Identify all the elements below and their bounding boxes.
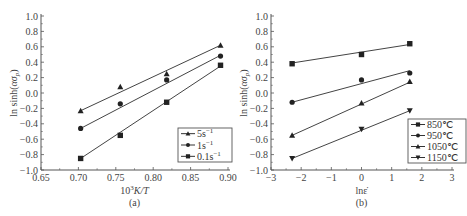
x-tick-label: −3	[266, 172, 277, 183]
y-tick-label: −0.4	[250, 118, 268, 129]
triangle-down-marker-icon	[407, 108, 413, 114]
panel-label: (a)	[129, 197, 140, 209]
y-tick-label: −0.8	[250, 149, 268, 160]
x-tick-label: 0	[359, 172, 364, 183]
x-tick-label: 0.75	[107, 172, 125, 183]
x-axis-title: lnε̇	[356, 185, 369, 196]
circle-marker-icon	[186, 143, 190, 147]
y-tick-label: 0.2	[26, 72, 39, 83]
chart-panel-b: −1.0−0.8−0.6−0.4−0.20.00.20.40.60.81.0−3…	[238, 11, 466, 210]
x-tick-label: −2	[296, 172, 307, 183]
circle-marker-icon	[164, 77, 169, 82]
series-950℃	[290, 70, 413, 104]
square-marker-icon	[164, 100, 169, 105]
panel-label: (b)	[356, 197, 368, 209]
y-tick-label: 0.4	[256, 57, 269, 68]
x-tick-label: 2	[419, 172, 424, 183]
circle-marker-icon	[407, 70, 412, 75]
fit-line	[292, 71, 410, 103]
square-marker-icon	[407, 41, 412, 46]
y-tick-label: 0.6	[256, 41, 269, 52]
x-tick-label: −1	[326, 172, 337, 183]
x-tick-label: 1	[389, 172, 394, 183]
square-marker-icon	[359, 52, 364, 57]
x-tick-label: 0.90	[219, 172, 237, 183]
series-850℃	[289, 41, 412, 66]
circle-marker-icon	[118, 101, 123, 106]
legend-entry: 1150℃	[427, 152, 458, 163]
circle-marker-icon	[218, 53, 223, 58]
y-tick-label: 0.4	[26, 57, 39, 68]
y-tick-label: 0.0	[26, 88, 39, 99]
triangle-down-marker-icon	[289, 156, 295, 162]
square-marker-icon	[186, 154, 190, 158]
x-tick-label: 0.85	[182, 172, 200, 183]
y-tick-label: 0.8	[26, 26, 39, 37]
square-marker-icon	[78, 156, 83, 161]
y-tick-label: −0.2	[250, 103, 268, 114]
y-tick-label: 0.8	[256, 26, 269, 37]
y-tick-label: 0.6	[26, 41, 39, 52]
y-tick-label: 0.0	[256, 88, 269, 99]
x-tick-label: 0.80	[144, 172, 162, 183]
circle-marker-icon	[416, 134, 420, 138]
x-tick-label: 3	[450, 172, 455, 183]
series-5s-1	[78, 42, 224, 113]
legend: 850℃950℃1050℃1150℃	[408, 119, 466, 163]
square-marker-icon	[118, 133, 123, 138]
triangle-up-marker-icon	[218, 42, 224, 48]
series-1050℃	[289, 78, 413, 137]
y-tick-label: 0.2	[256, 72, 269, 83]
x-tick-label: 0.65	[32, 172, 50, 183]
circle-marker-icon	[78, 126, 83, 131]
fit-line	[292, 44, 410, 62]
circle-marker-icon	[359, 77, 364, 82]
legend: 5s−11s−10.1s−1	[178, 127, 232, 162]
figure: −1.0−0.8−0.6−0.4−0.20.00.20.40.60.81.00.…	[0, 0, 467, 216]
y-tick-label: 1.0	[256, 11, 269, 22]
y-tick-label: −0.6	[20, 134, 38, 145]
series-1s-1	[78, 53, 223, 131]
x-axis-title: 103K/T	[120, 184, 150, 196]
triangle-up-marker-icon	[117, 84, 123, 90]
y-tick-label: −0.4	[20, 118, 38, 129]
triangle-up-marker-icon	[407, 78, 413, 84]
chart-panel-a: −1.0−0.8−0.6−0.4−0.20.00.20.40.60.81.00.…	[8, 11, 237, 210]
fit-line	[292, 111, 410, 159]
square-marker-icon	[289, 61, 294, 66]
series-1150℃	[289, 108, 413, 161]
legend-entry: 950℃	[427, 130, 453, 141]
square-marker-icon	[416, 122, 420, 126]
legend-entry: 850℃	[427, 119, 453, 130]
legend-entry: 1050℃	[427, 141, 458, 152]
fit-line	[81, 45, 221, 110]
y-tick-label: −0.8	[20, 149, 38, 160]
triangle-up-marker-icon	[289, 132, 295, 138]
fit-line	[292, 82, 410, 135]
y-tick-label: −0.2	[20, 103, 38, 114]
circle-marker-icon	[290, 100, 295, 105]
triangle-up-marker-icon	[78, 108, 84, 114]
fit-line	[81, 55, 221, 128]
square-marker-icon	[218, 63, 223, 68]
x-tick-label: 0.70	[70, 172, 88, 183]
y-tick-label: 1.0	[26, 11, 39, 22]
y-tick-label: −0.6	[250, 134, 268, 145]
